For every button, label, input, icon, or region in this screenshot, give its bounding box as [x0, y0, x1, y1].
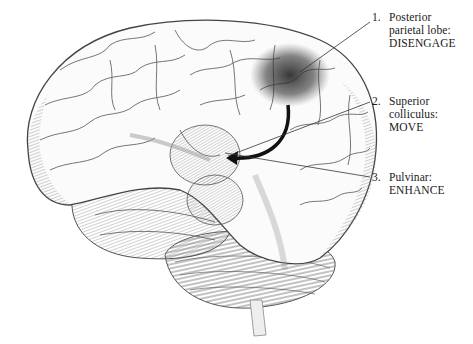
- figure: 1. Posterior parietal lobe: DISENGAGE 2.…: [0, 0, 473, 344]
- label-line: parietal lobe:: [389, 24, 456, 37]
- label-number: 2.: [372, 95, 381, 108]
- posterior-parietal-shading: [250, 43, 330, 107]
- label-line: Posterior: [389, 11, 456, 24]
- label-action: ENHANCE: [389, 184, 445, 197]
- label-number: 1.: [372, 11, 381, 24]
- label-line: colliculus:: [389, 108, 438, 121]
- label-action: DISENGAGE: [389, 37, 456, 50]
- label-action: MOVE: [389, 121, 438, 134]
- label-line: Superior: [389, 95, 438, 108]
- label-number: 3.: [372, 171, 381, 184]
- label-line: Pulvinar:: [389, 171, 445, 184]
